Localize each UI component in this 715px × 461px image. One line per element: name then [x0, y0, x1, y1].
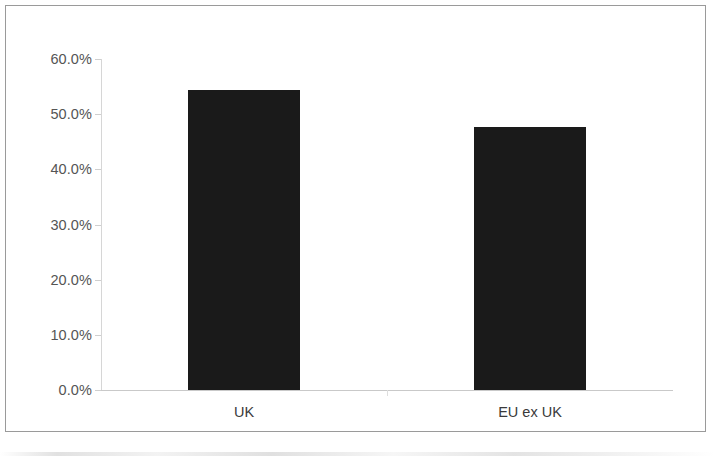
- y-tick-mark: [95, 280, 101, 281]
- y-tick-label: 0.0%: [59, 382, 92, 398]
- bar-eu-ex-uk: [474, 127, 586, 390]
- y-tick-label: 30.0%: [50, 217, 92, 233]
- y-tick-mark: [95, 335, 101, 336]
- category-tick-1: [387, 390, 388, 396]
- y-tick-label: 50.0%: [50, 106, 92, 122]
- y-tick-mark: [95, 390, 101, 391]
- figure-frame: 0.0%10.0%20.0%30.0%40.0%50.0%60.0% UKEU …: [5, 5, 706, 432]
- y-tick-label: 60.0%: [50, 51, 92, 67]
- category-label-0: UK: [234, 404, 254, 420]
- y-axis-line: [101, 59, 102, 390]
- y-tick-mark: [95, 225, 101, 226]
- y-tick-mark: [95, 59, 101, 60]
- y-tick-label: 40.0%: [50, 161, 92, 177]
- category-label-1: EU ex UK: [498, 404, 562, 420]
- y-tick-mark: [95, 114, 101, 115]
- bar-uk: [188, 90, 300, 390]
- scan-artifact: [0, 452, 715, 456]
- y-tick-mark: [95, 169, 101, 170]
- y-tick-label: 10.0%: [50, 327, 92, 343]
- bar-chart: 0.0%10.0%20.0%30.0%40.0%50.0%60.0% UKEU …: [6, 6, 707, 433]
- plot-area: 0.0%10.0%20.0%30.0%40.0%50.0%60.0% UKEU …: [101, 59, 673, 390]
- y-tick-label: 20.0%: [50, 272, 92, 288]
